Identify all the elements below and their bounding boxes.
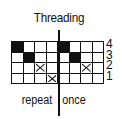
cross-mark-icon (82, 64, 91, 72)
grid-cell-shaft4-col5 (58, 42, 70, 53)
grid-cell-shaft1-col5 (58, 74, 70, 85)
grid-cell-shaft2-col3 (35, 63, 47, 74)
repeat-divider-line (58, 30, 60, 116)
grid-cell-shaft2-col1 (12, 63, 24, 74)
grid-cell-shaft2-col6 (70, 63, 82, 74)
shaft-labels: 4 3 2 1 (106, 39, 113, 81)
once-label: once (62, 93, 85, 107)
grid-cell-shaft4-col4 (47, 42, 59, 53)
grid-cell-shaft1-col7 (81, 74, 93, 85)
grid-cell-shaft4-col7 (81, 42, 93, 53)
grid-cell-shaft3-col4 (47, 53, 59, 64)
grid-cell-shaft3-col5 (58, 53, 70, 64)
grid-cell-shaft1-col4 (47, 74, 59, 85)
shaft-label-1: 1 (106, 71, 113, 82)
grid-cell-shaft3-col6 (70, 53, 82, 64)
grid-cell-shaft1-col6 (70, 74, 82, 85)
grid-cell-shaft2-col4 (47, 63, 59, 74)
grid-cell-shaft3-col7 (81, 53, 93, 64)
grid-cell-shaft4-col6 (70, 42, 82, 53)
diagram-title: Threading (6, 10, 112, 25)
grid-cell-shaft4-col3 (35, 42, 47, 53)
grid-cell-shaft3-col1 (12, 53, 24, 64)
grid-cell-shaft3-col8 (93, 53, 105, 64)
grid-cell-shaft2-col8 (93, 63, 105, 74)
grid-cell-shaft3-col2 (24, 53, 36, 64)
grid-cell-shaft2-col7 (81, 63, 93, 74)
grid-cell-shaft4-col1 (12, 42, 24, 53)
grid-cell-shaft2-col2 (24, 63, 36, 74)
cross-mark-icon (36, 64, 45, 72)
grid-cell-shaft4-col2 (24, 42, 36, 53)
cross-mark-icon (48, 75, 57, 83)
repeat-label: repeat (22, 93, 53, 107)
grid-cell-shaft1-col8 (93, 74, 105, 85)
grid-cell-shaft4-col8 (93, 42, 105, 53)
grid-cell-shaft1-col1 (12, 74, 24, 85)
grid-cell-shaft1-col2 (24, 74, 36, 85)
grid-cell-shaft1-col3 (35, 74, 47, 85)
grid-cell-shaft2-col5 (58, 63, 70, 74)
grid-cell-shaft3-col3 (35, 53, 47, 64)
